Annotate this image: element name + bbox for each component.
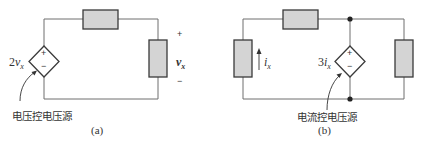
resistor-b-left	[234, 40, 252, 77]
node-b-top	[347, 16, 352, 21]
annotation-b: 电流控电压源	[297, 112, 357, 123]
wire-a-top-right	[118, 19, 158, 40]
node-b-bottom	[347, 96, 352, 101]
source-b-plus: +	[347, 49, 352, 58]
resistor-b-right	[395, 40, 413, 77]
source-a-gain-label: 2vx	[9, 56, 24, 71]
annotation-a: 电压控电压源	[12, 111, 72, 122]
resistor-a-top	[83, 10, 118, 29]
source-b-gain-label: 3ix	[318, 56, 331, 71]
wire-a-top-left	[44, 19, 83, 46]
caption-a: (a)	[91, 125, 103, 136]
gain-subscript: x	[20, 62, 24, 71]
source-a-minus: −	[41, 62, 46, 71]
gain-subscript: x	[327, 62, 331, 71]
circuit-diagrams	[0, 0, 425, 147]
output-a-voltage-label: vx	[176, 56, 185, 71]
circuit-a	[44, 19, 158, 99]
caption-b: (b)	[318, 125, 331, 136]
annotation-arrow-a	[20, 72, 35, 101]
source-b-minus: −	[347, 62, 352, 71]
arrowhead-a	[32, 71, 38, 76]
wire-b-left-top	[243, 19, 283, 40]
wire-b-bottom	[243, 77, 404, 99]
annotation-arrow-b	[327, 75, 340, 110]
wire-b-top-right	[318, 19, 404, 40]
output-subscript: x	[181, 62, 185, 71]
current-label: ix	[264, 56, 271, 71]
output-a-plus: +	[177, 30, 182, 39]
output-a-minus: −	[177, 77, 182, 86]
resistor-a-right	[149, 40, 167, 77]
source-a-plus: +	[41, 49, 46, 58]
current-arrowhead	[257, 48, 262, 54]
wire-a-bottom	[44, 77, 158, 99]
current-subscript: x	[267, 62, 271, 71]
resistor-b-top	[283, 10, 318, 29]
